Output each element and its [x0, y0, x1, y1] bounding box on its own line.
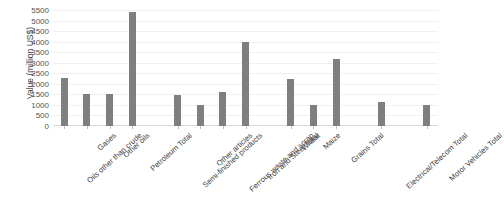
x-axis-tick — [223, 126, 224, 129]
x-axis-tick — [427, 126, 428, 129]
x-axis-tick — [132, 126, 133, 129]
x-axis-tick — [87, 126, 88, 129]
x-axis-tick-label: Gases — [96, 131, 118, 152]
bar — [378, 102, 385, 126]
y-axis-tick-label: 5000 — [0, 16, 49, 25]
bar — [333, 59, 340, 126]
x-axis-tick — [64, 126, 65, 129]
bar — [310, 105, 317, 126]
gridline — [53, 21, 438, 22]
bar — [129, 12, 136, 126]
bar — [242, 42, 249, 126]
gridline — [53, 10, 438, 11]
x-axis-tick — [246, 126, 247, 129]
bar — [197, 105, 204, 127]
y-axis-tick-label: 5500 — [0, 6, 49, 15]
x-axis-label-wrapper: Electrical/Telecom Total — [405, 131, 470, 191]
x-axis-tick — [200, 126, 201, 129]
x-axis-tick-label: Petroleum Total — [149, 131, 194, 173]
y-axis-tick-label: 4500 — [0, 27, 49, 36]
gridline — [53, 31, 438, 32]
bar — [423, 105, 430, 126]
bar — [83, 94, 90, 126]
y-axis-tick-label: 2500 — [0, 69, 49, 78]
x-axis-label-wrapper: Petroleum Total — [149, 131, 194, 173]
x-axis-tick-label: Electrical/Telecom Total — [405, 131, 470, 191]
y-axis-tick-label: 500 — [0, 111, 49, 120]
x-axis-tick — [381, 126, 382, 129]
y-axis-tick-label: 3500 — [0, 48, 49, 57]
y-axis-tick-labels: 0500100015002000250030003500400045005000… — [0, 10, 49, 126]
bar — [61, 78, 68, 127]
x-axis-label-wrapper: Wheat — [299, 131, 321, 152]
y-axis-tick-label: 3000 — [0, 58, 49, 67]
y-axis-tick-label: 2000 — [0, 79, 49, 88]
bar — [174, 95, 181, 126]
y-axis-tick-label: 0 — [0, 122, 49, 131]
x-axis-label-wrapper: Gases — [96, 131, 118, 152]
x-axis-tick — [291, 126, 292, 129]
x-axis-tick-label: Maize — [322, 131, 343, 151]
y-axis-tick-label: 4000 — [0, 37, 49, 46]
x-axis-tick — [178, 126, 179, 129]
x-axis-tick — [336, 126, 337, 129]
x-axis-tick — [110, 126, 111, 129]
x-axis-tick-label: Wheat — [299, 131, 321, 152]
y-axis-tick-label: 1000 — [0, 100, 49, 109]
x-axis-tick — [313, 126, 314, 129]
x-axis-tick-label: Grains Total — [349, 131, 385, 165]
y-axis-tick-label: 1500 — [0, 90, 49, 99]
x-axis-label-wrapper: Grains Total — [349, 131, 385, 165]
bar — [106, 94, 113, 126]
bar — [219, 92, 226, 126]
x-axis-label-wrapper: Maize — [322, 131, 343, 151]
plot-area — [53, 10, 438, 126]
bar — [287, 79, 294, 126]
